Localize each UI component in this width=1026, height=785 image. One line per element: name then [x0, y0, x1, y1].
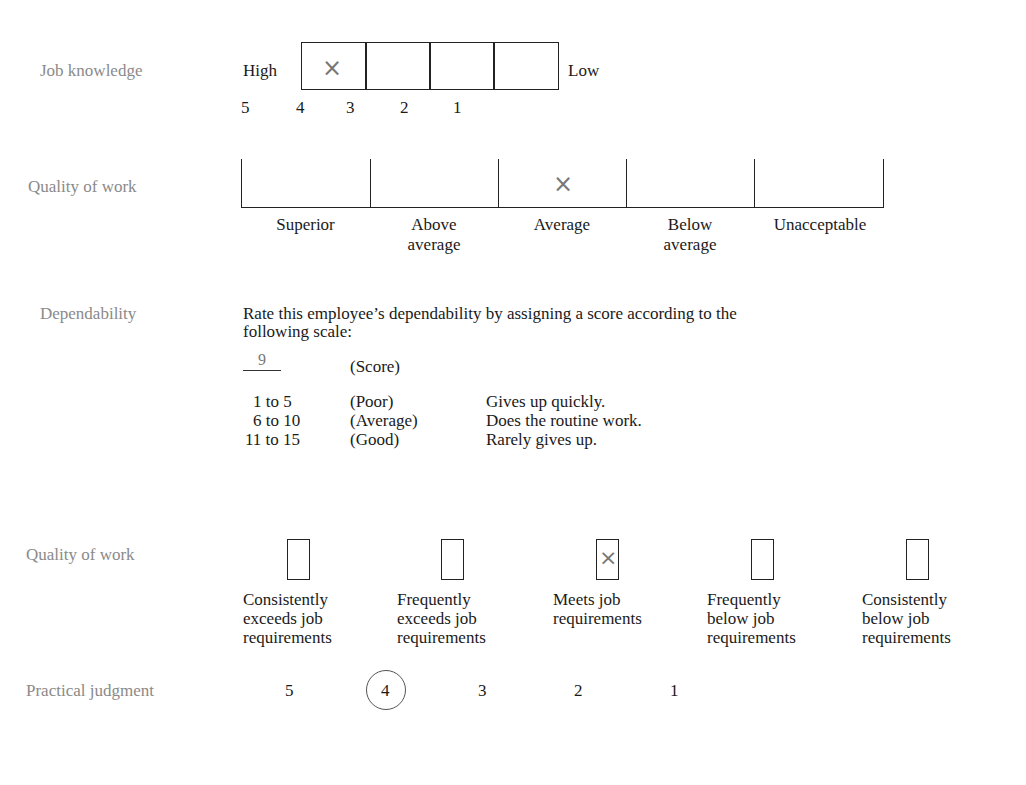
practical-judgment-option-1[interactable]: 1	[670, 681, 679, 701]
scale-level-poor: (Poor)	[350, 392, 393, 412]
quality-scale-divider	[241, 159, 242, 208]
quality-checkbox-option-label: Meets job requirements	[553, 590, 642, 628]
quality-checkbox-consistently-exceeds[interactable]	[287, 539, 310, 580]
practical-judgment-option-2[interactable]: 2	[574, 681, 583, 701]
quality-scale-divider	[498, 159, 499, 208]
quality-option-label: Superior	[276, 215, 335, 234]
quality-checkbox-consistently-below[interactable]	[906, 539, 929, 580]
quality-option-below-average[interactable]: Below average	[626, 215, 754, 255]
job-knowledge-cell-3[interactable]	[429, 42, 495, 90]
dependability-instruction-line1: Rate this employee’s dependability by as…	[243, 304, 737, 324]
job-knowledge-tick-3: 3	[346, 98, 355, 118]
option-line: Frequently	[397, 590, 486, 609]
scale-desc-average: Does the routine work.	[486, 411, 642, 431]
dependability-score-value: 9	[258, 351, 266, 368]
quality-checkbox-option-label: Consistently exceeds job requirements	[243, 590, 332, 647]
dependability-score-label: (Score)	[350, 357, 400, 377]
quality-scale-baseline	[241, 207, 884, 208]
quality-option-label: average	[370, 235, 498, 255]
job-knowledge-tick-5: 5	[241, 98, 250, 118]
quality-scale-divider	[883, 159, 884, 208]
quality-scale-divider	[626, 159, 627, 208]
quality-scale-divider	[370, 159, 371, 208]
job-knowledge-x-mark: ×	[322, 54, 342, 82]
scale-range-good: 11 to 15	[245, 430, 300, 450]
quality-scale-x-mark: ×	[553, 170, 573, 198]
dependability-label: Dependability	[40, 304, 136, 324]
practical-judgment-option-4[interactable]: 4	[381, 681, 390, 701]
option-line: below job	[862, 609, 951, 628]
job-knowledge-cell-2[interactable]	[365, 42, 431, 90]
quality-checkbox-frequently-exceeds[interactable]	[441, 539, 464, 580]
option-line: requirements	[862, 628, 951, 647]
scale-level-good: (Good)	[350, 430, 399, 450]
quality-checkbox-x-mark: ×	[599, 545, 617, 570]
dependability-score-field[interactable]: 9	[243, 350, 281, 371]
practical-judgment-label: Practical judgment	[26, 681, 154, 701]
job-knowledge-label: Job knowledge	[40, 61, 142, 81]
scale-desc-poor: Gives up quickly.	[486, 392, 605, 412]
option-line: Meets job	[553, 590, 642, 609]
quality-option-above-average[interactable]: Above average	[370, 215, 498, 255]
quality-scale-divider	[754, 159, 755, 208]
quality-of-work-label: Quality of work	[28, 177, 137, 197]
option-line: exceeds job	[397, 609, 486, 628]
dependability-instruction-line2: following scale:	[243, 322, 352, 342]
job-knowledge-tick-2: 2	[400, 98, 409, 118]
quality-option-label: average	[626, 235, 754, 255]
option-line: below job	[707, 609, 796, 628]
option-line: requirements	[243, 628, 332, 647]
job-knowledge-low-label: Low	[568, 61, 599, 81]
quality-checkbox-option-label: Frequently below job requirements	[707, 590, 796, 647]
quality-of-work-checkbox-label: Quality of work	[26, 545, 135, 565]
scale-level-average: (Average)	[350, 411, 418, 431]
job-knowledge-tick-1: 1	[453, 98, 462, 118]
job-knowledge-cell-4[interactable]	[493, 42, 559, 90]
scale-range-average: 6 to 10	[253, 411, 300, 431]
quality-option-label: Unacceptable	[774, 215, 867, 234]
quality-checkbox-frequently-below[interactable]	[751, 539, 774, 580]
quality-option-label: Below	[626, 215, 754, 235]
job-knowledge-tick-4: 4	[296, 98, 305, 118]
quality-checkbox-option-label: Frequently exceeds job requirements	[397, 590, 486, 647]
scale-range-poor: 1 to 5	[253, 392, 292, 412]
scale-desc-good: Rarely gives up.	[486, 430, 597, 450]
option-line: exceeds job	[243, 609, 332, 628]
quality-option-label: Average	[534, 215, 590, 234]
quality-option-average[interactable]: Average	[498, 215, 626, 235]
option-line: requirements	[707, 628, 796, 647]
option-line: Frequently	[707, 590, 796, 609]
option-line: requirements	[397, 628, 486, 647]
option-line: Consistently	[243, 590, 332, 609]
quality-option-superior[interactable]: Superior	[241, 215, 370, 235]
quality-option-label: Above	[370, 215, 498, 235]
option-line: Consistently	[862, 590, 951, 609]
quality-option-unacceptable[interactable]: Unacceptable	[754, 215, 886, 235]
job-knowledge-high-label: High	[243, 61, 277, 81]
practical-judgment-option-3[interactable]: 3	[478, 681, 487, 701]
quality-checkbox-option-label: Consistently below job requirements	[862, 590, 951, 647]
option-line: requirements	[553, 609, 642, 628]
practical-judgment-option-5[interactable]: 5	[285, 681, 294, 701]
